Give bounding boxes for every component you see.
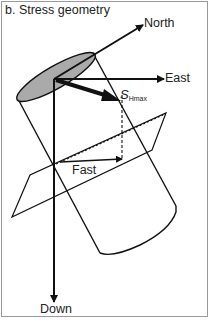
east-label: East (165, 72, 190, 85)
stress-geometry-diagram (0, 0, 212, 320)
shmax-main: S (120, 87, 129, 102)
shmax-subscript: Hmax (129, 95, 147, 102)
figure-title: b. Stress geometry (5, 4, 110, 17)
projection-dashed-lines (56, 95, 165, 164)
shmax-arrow (56, 80, 121, 101)
north-label: North (144, 17, 175, 30)
down-label: Down (40, 303, 72, 316)
fast-direction-arrow (60, 159, 122, 162)
shmax-label: SHmax (120, 88, 147, 102)
north-axis-arrow (54, 25, 143, 79)
fast-label: Fast (72, 164, 96, 177)
